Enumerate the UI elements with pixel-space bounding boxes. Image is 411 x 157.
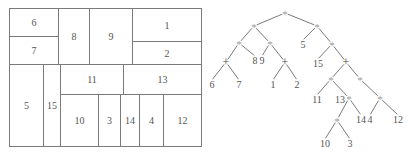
tree-leaf-1: 1 — [271, 79, 276, 90]
tree-node-star: * — [328, 74, 334, 86]
tree-edge — [351, 100, 361, 114]
tree-node-star: * — [329, 39, 335, 51]
tree-edge — [241, 45, 254, 55]
tree-node-star: * — [377, 93, 383, 105]
tree-leaf-8: 8 — [253, 55, 258, 66]
tree-node-star: * — [236, 38, 242, 50]
tree-edge — [257, 14, 282, 25]
diagram-canvas: 678912515111310314412 *****+89+67125*15+… — [0, 0, 411, 157]
tree-leaf-9: 9 — [260, 55, 265, 66]
tree-leaf-5: 5 — [301, 39, 306, 50]
tree-node-star: * — [251, 21, 257, 33]
tree-node-star: * — [267, 38, 273, 50]
tree-edge — [256, 28, 268, 41]
tree-leaf-4: 4 — [368, 114, 373, 125]
tree-node-plus: + — [282, 55, 289, 69]
tree-node-plus: + — [223, 55, 230, 69]
tree-leaf-2: 2 — [295, 79, 300, 90]
tree-node-star: * — [282, 8, 288, 20]
tree-node-plus: + — [343, 55, 350, 69]
tree-edge — [319, 46, 330, 58]
tree-leaf-12: 12 — [393, 114, 403, 125]
tree-edge — [288, 14, 314, 25]
tree-edge — [382, 100, 397, 114]
tree-node-star: * — [314, 21, 320, 33]
slicing-tree: *****+89+67125*15+**11***1441210313 — [0, 0, 411, 157]
tree-edge — [339, 122, 350, 138]
tree-leaf-3: 3 — [348, 138, 353, 149]
tree-leaf-10: 10 — [320, 138, 330, 149]
tree-node-star: * — [334, 115, 340, 127]
tree-leaf-7: 7 — [237, 79, 242, 90]
tree-leaf-14: 14 — [356, 114, 366, 125]
tree-leaf-6: 6 — [210, 79, 215, 90]
tree-node-star: * — [357, 74, 363, 86]
tree-edge — [362, 81, 378, 96]
tree-annotation-13: 13 — [335, 94, 345, 105]
tree-node-star: * — [346, 93, 352, 105]
tree-edge — [304, 28, 315, 39]
tree-leaf-11: 11 — [312, 94, 322, 105]
tree-leaf-15: 15 — [313, 58, 323, 69]
